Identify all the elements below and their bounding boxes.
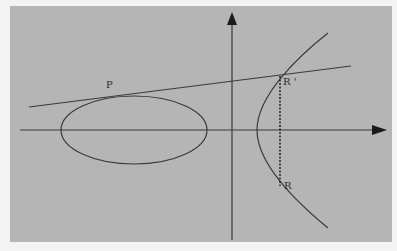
elliptic-curve-diagram: P R ' R bbox=[0, 0, 397, 251]
label-p: P bbox=[106, 79, 113, 90]
label-r-prime: R ' bbox=[283, 76, 296, 87]
x-axis-arrow-icon bbox=[372, 125, 387, 135]
y-axis-arrow-icon bbox=[227, 12, 237, 25]
tangent-line bbox=[29, 66, 351, 107]
label-r: R bbox=[284, 180, 292, 191]
